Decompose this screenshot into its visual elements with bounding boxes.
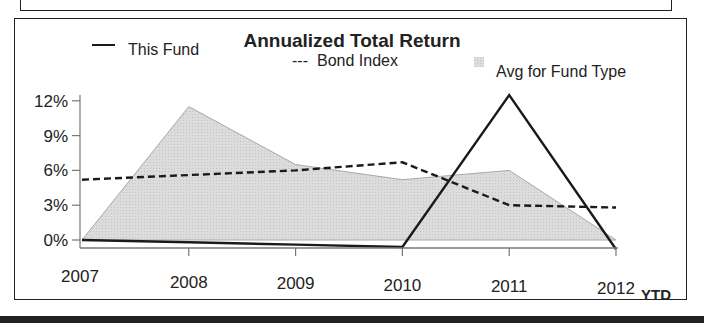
x-tick-label: 2010: [383, 276, 421, 295]
annualized-return-chart: Annualized Total Return This Fund --- Bo…: [0, 0, 704, 323]
y-tick-label: 9%: [43, 127, 68, 146]
legend-bond-index-marker: ---: [292, 52, 308, 69]
series-avg-fund-type-area: [82, 107, 616, 240]
x-tick-label: 2009: [277, 274, 315, 293]
x-tick-label: 2011: [491, 277, 528, 296]
legend-area-swatch-icon: [474, 57, 484, 67]
ytd-label: YTD: [641, 286, 671, 303]
y-tick-label: 0%: [43, 231, 68, 250]
y-tick-label: 12%: [34, 92, 68, 111]
legend-this-fund: This Fund: [128, 41, 199, 58]
y-tick-label: 3%: [43, 196, 68, 215]
chart-title: Annualized Total Return: [243, 30, 460, 51]
x-tick-label: 2007: [61, 267, 99, 286]
x-tick-label: 2012: [597, 279, 635, 298]
legend-bond-index: Bond Index: [317, 52, 398, 69]
x-tick-label: 2008: [170, 273, 208, 292]
y-tick-label: 6%: [43, 161, 68, 180]
legend-avg-fund-type: Avg for Fund Type: [496, 63, 626, 80]
